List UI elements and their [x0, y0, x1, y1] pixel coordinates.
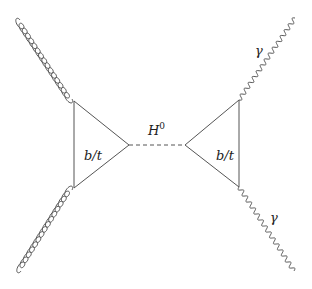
left-loop-label: b/t: [84, 148, 103, 163]
right-quark-loop: [185, 100, 239, 187]
right-loop-label: b/t: [216, 148, 235, 163]
photon-line-bottom-right: [238, 187, 295, 271]
higgs-label: H0: [147, 121, 165, 138]
photon-bottom-label: γ: [270, 210, 278, 225]
photon-line-top-right: [239, 18, 295, 100]
gluon-line-bottom-left: [17, 186, 73, 273]
left-quark-loop: [74, 101, 129, 188]
gluon-line-top-left: [16, 18, 73, 103]
feynman-diagram: b/t b/t H0 γ γ: [0, 0, 312, 289]
photon-top-label: γ: [255, 43, 263, 58]
